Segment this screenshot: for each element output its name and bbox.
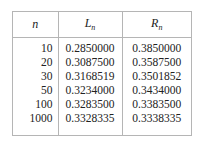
cell-left-sum: 0.3328335 [58,112,122,135]
header-right-sum: Rn [122,12,191,38]
table-row: 100 0.3283500 0.3383500 [13,98,191,112]
cell-left-sum: 0.3234000 [58,84,122,98]
header-n-label: n [32,17,38,31]
cell-left-sum: 0.3087500 [58,56,122,70]
cell-left-sum: 0.3168519 [58,70,122,84]
cell-left-sum: 0.2850000 [58,38,122,57]
cell-right-sum: 0.3383500 [122,98,191,112]
header-row: n Ln Rn [13,12,191,38]
table-row: 20 0.3087500 0.3587500 [13,56,191,70]
cell-right-sum: 0.3850000 [122,38,191,57]
header-r-subscript: n [158,24,162,33]
cell-n: 10 [13,38,58,57]
riemann-sum-table: n Ln Rn 10 0.2850000 0.3850000 20 0.3087… [12,11,192,136]
table-row: 50 0.3234000 0.3434000 [13,84,191,98]
cell-n: 1000 [13,112,58,135]
header-l-subscript: n [91,24,95,33]
cell-right-sum: 0.3501852 [122,70,191,84]
cell-n: 50 [13,84,58,98]
cell-right-sum: 0.3587500 [122,56,191,70]
cell-n: 20 [13,56,58,70]
data-table: n Ln Rn 10 0.2850000 0.3850000 20 0.3087… [13,12,191,135]
header-n: n [13,12,58,38]
cell-right-sum: 0.3434000 [122,84,191,98]
table-row: 1000 0.3328335 0.3338335 [13,112,191,135]
header-left-sum: Ln [58,12,122,38]
cell-right-sum: 0.3338335 [122,112,191,135]
cell-left-sum: 0.3283500 [58,98,122,112]
cell-n: 30 [13,70,58,84]
table-row: 10 0.2850000 0.3850000 [13,38,191,57]
cell-n: 100 [13,98,58,112]
table-row: 30 0.3168519 0.3501852 [13,70,191,84]
